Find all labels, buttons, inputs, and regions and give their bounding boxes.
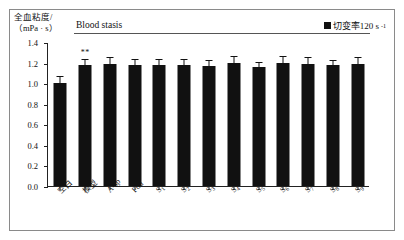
bar-group[interactable] <box>320 43 345 186</box>
error-bar-cap <box>255 62 262 63</box>
error-bar-cap <box>106 57 113 58</box>
error-bar <box>357 58 358 63</box>
y-axis-tick-label: 1.4 <box>27 38 38 48</box>
bar[interactable] <box>103 64 116 186</box>
bar[interactable] <box>79 65 92 186</box>
bar-group[interactable] <box>197 43 222 186</box>
bar-group[interactable] <box>147 43 172 186</box>
y-axis-tick-labels: 0.00.20.40.60.81.01.21.4 <box>0 43 44 187</box>
x-axis-tick-labels: 空白模型A-spFddS1S2S3S4S5S6S7S8S9 <box>47 188 369 222</box>
y-axis-tick-mark <box>44 166 48 167</box>
group-header-rule <box>74 33 370 34</box>
error-bar <box>134 60 135 65</box>
error-bar <box>283 57 284 62</box>
chart-figure: 全血粘度/ （mPa · s） Blood stasis 切变率120 s-1 … <box>0 0 404 240</box>
error-bar-cap <box>181 59 188 60</box>
bar[interactable] <box>202 66 215 186</box>
error-bar <box>184 60 185 65</box>
legend: 切变率120 s-1 <box>324 19 386 32</box>
y-axis-tick-label: 1.2 <box>27 59 38 69</box>
y-axis-tick-label: 0.0 <box>27 182 38 192</box>
y-axis-tick-label: 1.0 <box>27 79 38 89</box>
significance-marker: ** <box>81 48 90 57</box>
error-bar-cap <box>57 76 64 77</box>
error-bar-cap <box>280 56 287 57</box>
bar[interactable] <box>178 65 191 186</box>
error-bar-cap <box>205 60 212 61</box>
y-axis-tick-mark <box>44 43 48 44</box>
error-bar <box>85 60 86 65</box>
y-axis-tick-label: 0.6 <box>27 120 38 130</box>
plot-area: ** <box>47 43 369 187</box>
error-bar-cap <box>305 57 312 58</box>
y-axis-tick-label: 0.8 <box>27 100 38 110</box>
group-header-label: Blood stasis <box>76 20 122 30</box>
y-axis-title-line1: 全血粘度/ <box>14 12 76 23</box>
bar[interactable] <box>128 65 141 186</box>
error-bar-cap <box>156 59 163 60</box>
error-bar <box>308 58 309 63</box>
error-bar <box>208 61 209 66</box>
bar-group[interactable] <box>246 43 271 186</box>
error-bar-cap <box>329 60 336 61</box>
bar[interactable] <box>153 65 166 186</box>
y-axis-tick-mark <box>44 125 48 126</box>
error-bar <box>258 63 259 67</box>
y-axis-tick-mark <box>44 105 48 106</box>
bar-group[interactable] <box>271 43 296 186</box>
y-axis-tick-label: 0.2 <box>27 161 38 171</box>
bar-group[interactable] <box>122 43 147 186</box>
y-axis-tick-label: 0.4 <box>27 141 38 151</box>
error-bar-cap <box>230 56 237 57</box>
bar[interactable] <box>351 64 364 186</box>
error-bar <box>60 77 61 83</box>
error-bar-cap <box>354 57 361 58</box>
bar[interactable] <box>302 64 315 186</box>
bar-group[interactable] <box>98 43 123 186</box>
y-axis-tick-mark <box>44 84 48 85</box>
bar[interactable] <box>277 63 290 186</box>
bar[interactable] <box>54 83 67 186</box>
legend-swatch-icon <box>324 22 331 29</box>
bar[interactable] <box>227 63 240 186</box>
error-bar <box>332 61 333 65</box>
legend-label: 切变率120 s <box>333 19 379 32</box>
bar-group[interactable] <box>345 43 370 186</box>
y-axis-tick-mark <box>44 146 48 147</box>
bar-group[interactable] <box>296 43 321 186</box>
y-axis-title-line2: （mPa · s） <box>14 23 76 34</box>
y-axis-title: 全血粘度/ （mPa · s） <box>14 12 76 34</box>
error-bar-cap <box>82 59 89 60</box>
error-bar-cap <box>131 59 138 60</box>
bar-series: ** <box>48 43 369 186</box>
legend-label-superscript: -1 <box>381 23 386 29</box>
bar-group[interactable] <box>48 43 73 186</box>
y-axis-tick-mark <box>44 64 48 65</box>
bar-group[interactable] <box>172 43 197 186</box>
bar-group[interactable]: ** <box>73 43 98 186</box>
error-bar <box>159 60 160 65</box>
bar-group[interactable] <box>221 43 246 186</box>
bar[interactable] <box>326 65 339 186</box>
bar[interactable] <box>252 67 265 186</box>
error-bar <box>233 57 234 62</box>
error-bar <box>109 58 110 63</box>
